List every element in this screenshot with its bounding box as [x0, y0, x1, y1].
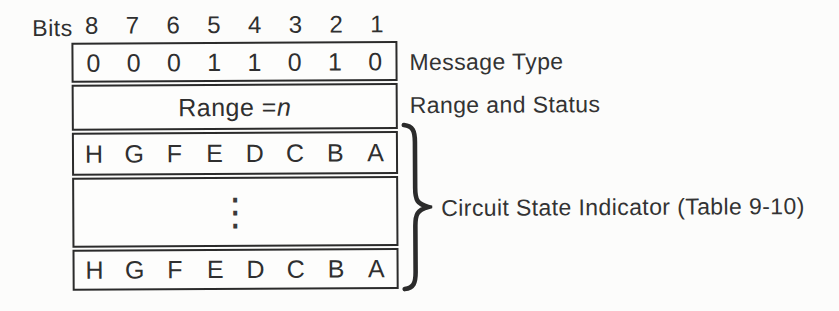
bit-cell: 1 [194, 47, 234, 76]
message-type-row: 0 0 0 1 1 0 1 0 [71, 41, 397, 83]
bit-cell: 0 [154, 48, 194, 77]
flag-cell: G [115, 255, 155, 284]
bit-number-7: 7 [112, 11, 153, 39]
bit-field-diagram: Bits 8 7 6 5 4 3 2 1 0 0 0 1 1 0 1 0 [0, 0, 839, 311]
flag-cell: B [315, 138, 355, 167]
message-type-caption: Message Type [409, 48, 563, 76]
circuit-state-cells: H G F E D C B A [74, 138, 396, 169]
flag-cell: H [75, 256, 115, 285]
range-variable: n [277, 92, 292, 121]
flag-cell: B [316, 254, 356, 283]
bit-cell: 0 [355, 47, 395, 76]
flag-cell: C [276, 255, 316, 284]
bit-number-3: 3 [275, 11, 316, 39]
flag-cell: D [235, 139, 275, 168]
bit-number-4: 4 [234, 11, 275, 39]
message-format-box: 0 0 0 1 1 0 1 0 Range = n H G F E [71, 41, 398, 291]
vertical-ellipsis-icon: ⋮ [216, 193, 254, 231]
bit-number-5: 5 [193, 11, 234, 39]
circuit-state-row-first: H G F E D C B A [72, 131, 398, 176]
flag-cell: H [74, 140, 114, 169]
bit-cell: 0 [73, 48, 113, 77]
bit-number-header: 8 7 6 5 4 3 2 1 [71, 10, 397, 40]
flag-cell: F [154, 139, 194, 168]
bit-cell: 0 [114, 48, 154, 77]
flag-cell: E [195, 255, 235, 284]
range-status-caption: Range and Status [410, 91, 601, 119]
bit-number-8: 8 [71, 12, 112, 40]
bit-cell: 1 [315, 47, 355, 76]
flag-cell: C [275, 139, 315, 168]
bit-number-6: 6 [153, 11, 194, 39]
bit-number-1: 1 [356, 10, 397, 38]
curly-brace-icon [400, 122, 433, 292]
flag-cell: E [195, 139, 235, 168]
bit-cell: 0 [275, 47, 315, 76]
message-type-bits: 0 0 0 1 1 0 1 0 [73, 47, 395, 78]
flag-cell: F [155, 255, 195, 284]
flag-cell: D [236, 255, 276, 284]
flag-cell: A [356, 254, 396, 283]
circuit-state-row-last: H G F E D C B A [72, 248, 398, 291]
flag-cell: G [114, 139, 154, 168]
flag-cell: A [356, 138, 396, 167]
circuit-state-cells: H G F E D C B A [75, 254, 397, 285]
bit-number-2: 2 [316, 10, 357, 38]
bit-cell: 1 [234, 47, 274, 76]
scanned-figure-page: Bits 8 7 6 5 4 3 2 1 0 0 0 1 1 0 1 0 [0, 0, 839, 311]
range-row: Range = n [72, 83, 398, 131]
range-text: Range = [178, 92, 277, 122]
bits-label: Bits [32, 15, 72, 42]
circuit-state-caption: Circuit State Indicator (Table 9-10) [441, 193, 805, 222]
ellipsis-row: ⋮ [72, 176, 398, 248]
